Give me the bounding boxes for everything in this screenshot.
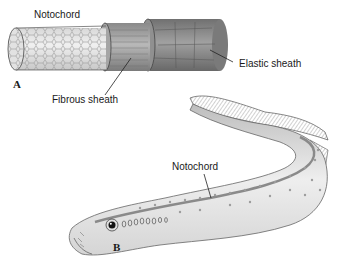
notochord-label-a: Notochord: [34, 9, 80, 20]
fibrous-sheath-segment: [99, 23, 150, 71]
notochord-core-segment: [8, 26, 106, 70]
notochord-figure: Notochord Fibrous sheath Elastic sheath …: [0, 0, 352, 263]
fibrous-sheath-label: Fibrous sheath: [52, 94, 118, 105]
panel-a-letter: A: [13, 78, 21, 90]
elastic-sheath-label: Elastic sheath: [239, 58, 301, 69]
eye: [106, 219, 118, 231]
notochord-cylinder: [8, 19, 228, 71]
notochord-label-b: Notochord: [172, 161, 218, 172]
larva-body: [69, 96, 328, 255]
figure-illustration: [0, 0, 352, 263]
panel-b-letter: B: [113, 241, 120, 253]
elastic-sheath-segment: [141, 19, 228, 71]
